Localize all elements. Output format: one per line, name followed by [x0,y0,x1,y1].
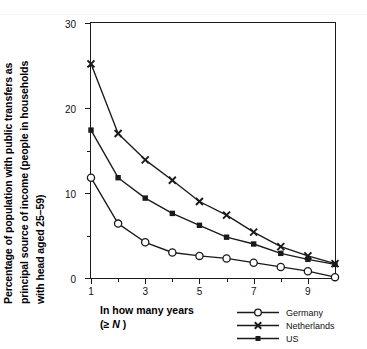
plot-series-svg [91,23,335,278]
data-point-filled-square [332,262,337,267]
series-us [88,127,337,267]
legend-label: Netherlands [280,321,335,331]
x-axis-tick-major [308,278,309,284]
series-germany [87,174,338,281]
data-point-open-circle [115,220,122,227]
data-point-cross [250,229,257,236]
y-axis-tick-major: 10 [85,193,91,194]
data-point-filled-square [197,223,202,228]
data-point-filled-square [88,127,93,132]
y-axis-title: Percentage of population with public tra… [0,0,88,300]
series-line [91,178,335,277]
series-netherlands [88,60,339,267]
data-point-cross [277,243,284,250]
data-point-cross [196,198,203,205]
legend-label: US [280,334,299,344]
legend-marker-cross-icon [236,319,280,332]
data-point-filled-square [143,195,148,200]
x-axis-tick-label: 1 [88,286,94,297]
data-point-open-circle [277,263,284,270]
x-axis-gte-symbol: ≥ [104,318,113,330]
data-point-cross [115,130,122,137]
x-axis-tick-label: 3 [142,286,148,297]
y-axis-tick-label: 30 [65,19,76,30]
x-axis-tick-major [145,278,146,284]
series-line [91,130,335,264]
data-point-filled-square [251,241,256,246]
legend-item-germany[interactable]: Germany [236,306,364,319]
x-axis-tick-label: 9 [305,286,311,297]
data-point-cross [169,177,176,184]
y-axis-title-line-2: principal source of income (people in ho… [18,61,30,304]
data-point-filled-square [115,175,120,180]
data-point-open-circle [304,268,311,275]
x-axis-tick-label: 7 [251,286,257,297]
x-axis-tick-minor [227,278,228,282]
plot-area: 010203013579 [90,22,336,279]
x-axis-paren-close: ) [120,318,126,330]
x-axis-tick-major [199,278,200,284]
data-point-filled-square [278,251,283,256]
x-axis-tick-minor [172,278,173,282]
legend-item-us[interactable]: US [236,332,364,345]
y-axis-title-line-1: Percentage of population with public tra… [2,63,14,304]
data-point-open-circle [142,239,149,246]
data-point-open-circle [255,309,262,316]
data-point-open-circle [331,274,338,281]
legend-label: Germany [280,308,323,318]
data-point-open-circle [169,249,176,256]
y-axis-tick-minor [87,151,91,152]
legend-marker-filled-square-icon [236,332,280,345]
chart-legend: GermanyNetherlandsUS [236,306,364,345]
x-axis-tick-label: 5 [197,286,203,297]
data-point-open-circle [196,252,203,259]
y-axis-tick-minor [87,66,91,67]
data-point-filled-square [170,211,175,216]
legend-item-netherlands[interactable]: Netherlands [236,319,364,332]
data-point-cross [223,212,230,219]
data-point-cross [142,156,149,163]
x-axis-variable-n: N [112,318,120,330]
x-axis-tick-major [91,278,92,284]
y-axis-tick-major: 20 [85,108,91,109]
chart-figure: Percentage of population with public tra… [0,0,367,349]
y-axis-tick-label: 0 [70,274,76,285]
data-point-open-circle [87,174,94,181]
y-axis-tick-major: 30 [85,23,91,24]
data-point-open-circle [223,255,230,262]
data-point-filled-square [224,235,229,240]
data-point-filled-square [256,336,261,341]
x-axis-tick-minor [281,278,282,282]
data-point-open-circle [250,259,257,266]
x-axis-tick-minor [118,278,119,282]
y-axis-tick-label: 10 [65,189,76,200]
series-line [91,64,335,264]
y-axis-tick-minor [87,236,91,237]
x-axis-tick-major [254,278,255,284]
data-point-filled-square [305,257,310,262]
y-axis-tick-label: 20 [65,104,76,115]
y-axis-title-line-3: with head aged 25–59) [34,195,46,304]
legend-marker-open-circle-icon [236,306,280,319]
